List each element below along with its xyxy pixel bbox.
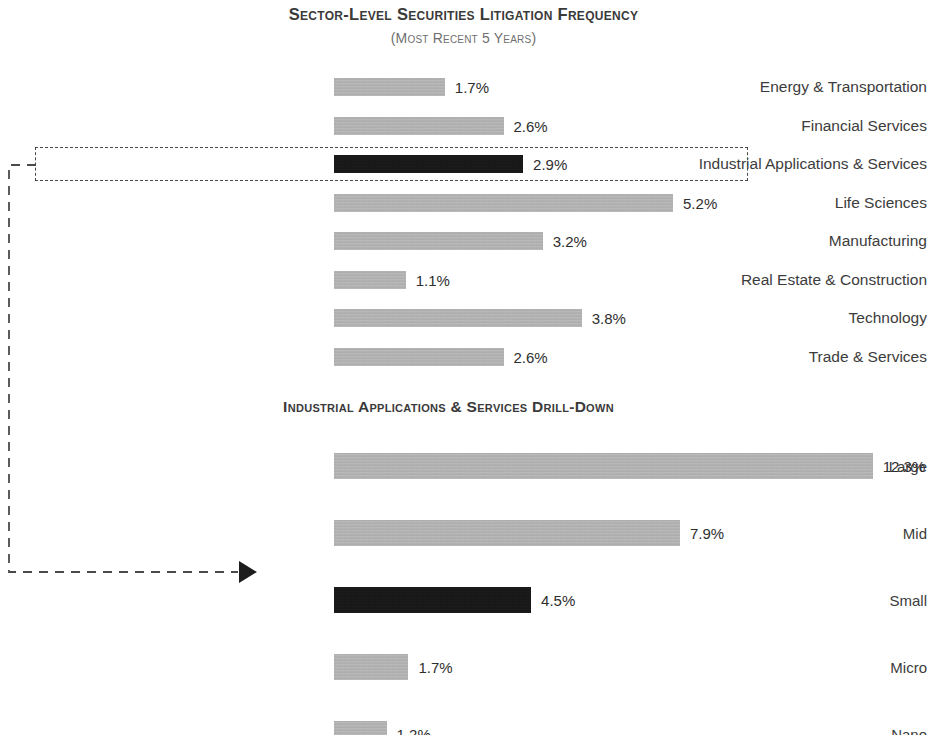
drilldown-category-label: Micro [605, 658, 927, 675]
drilldown-row[interactable]: Large12.3% [0, 432, 927, 499]
sector-row[interactable]: Industrial Applications & Services2.9% [0, 145, 927, 184]
sector-row[interactable]: Real Estate & Construction1.1% [0, 261, 927, 300]
sector-category-label: Manufacturing [605, 232, 927, 250]
sector-value-label: 5.2% [683, 194, 717, 211]
drilldown-bar[interactable] [334, 453, 873, 479]
page-subtitle: (Most Recent 5 Years) [0, 30, 927, 46]
drilldown-chart: Large12.3%Mid7.9%Small4.5%Micro1.7%Nano1… [0, 432, 927, 735]
sector-value-label: 2.6% [514, 348, 548, 365]
chart-page: Sector-Level Securities Litigation Frequ… [0, 0, 927, 735]
drilldown-bar-highlighted[interactable] [334, 587, 531, 613]
sector-bar[interactable] [334, 194, 673, 212]
sector-row[interactable]: Trade & Services2.6% [0, 338, 927, 377]
sector-row[interactable]: Financial Services2.6% [0, 107, 927, 146]
sector-category-label: Industrial Applications & Services [605, 155, 927, 173]
sector-bar[interactable] [334, 78, 445, 96]
drilldown-row[interactable]: Small4.5% [0, 566, 927, 633]
drilldown-value-label: 1.2% [397, 725, 431, 735]
sector-bar[interactable] [334, 232, 543, 250]
sector-value-label: 2.6% [514, 117, 548, 134]
sector-value-label: 2.9% [533, 156, 567, 173]
drilldown-category-label: Small [605, 591, 927, 608]
drilldown-row[interactable]: Nano1.2% [0, 700, 927, 735]
sector-value-label: 1.1% [416, 271, 450, 288]
sector-value-label: 3.2% [553, 233, 587, 250]
drilldown-category-label: Nano [605, 725, 927, 735]
sector-row[interactable]: Life Sciences5.2% [0, 184, 927, 223]
sector-row[interactable]: Technology3.8% [0, 299, 927, 338]
drilldown-bar[interactable] [334, 520, 680, 546]
drilldown-row[interactable]: Micro1.7% [0, 633, 927, 700]
sector-bar-highlighted[interactable] [334, 155, 523, 173]
sector-frequency-chart: Energy & Transportation1.7%Financial Ser… [0, 68, 927, 376]
page-title: Sector-Level Securities Litigation Frequ… [0, 5, 927, 24]
sector-row[interactable]: Energy & Transportation1.7% [0, 68, 927, 107]
sector-bar[interactable] [334, 309, 582, 327]
sector-category-label: Energy & Transportation [605, 78, 927, 96]
drilldown-bar[interactable] [334, 721, 387, 735]
sector-value-label: 3.8% [592, 310, 626, 327]
sector-category-label: Technology [605, 309, 927, 327]
drilldown-bar[interactable] [334, 654, 408, 680]
sector-category-label: Trade & Services [605, 348, 927, 366]
drilldown-value-label: 12.3% [883, 457, 926, 474]
drilldown-value-label: 7.9% [690, 524, 724, 541]
drilldown-row[interactable]: Mid7.9% [0, 499, 927, 566]
sector-bar[interactable] [334, 117, 504, 135]
sector-value-label: 1.7% [455, 79, 489, 96]
sector-row[interactable]: Manufacturing3.2% [0, 222, 927, 261]
drilldown-chart-title: Industrial Applications & Services Drill… [0, 398, 897, 416]
sector-bar[interactable] [334, 271, 406, 289]
drilldown-value-label: 4.5% [541, 591, 575, 608]
sector-category-label: Real Estate & Construction [605, 271, 927, 289]
sector-bar[interactable] [334, 348, 504, 366]
sector-category-label: Financial Services [605, 117, 927, 135]
drilldown-value-label: 1.7% [418, 658, 452, 675]
